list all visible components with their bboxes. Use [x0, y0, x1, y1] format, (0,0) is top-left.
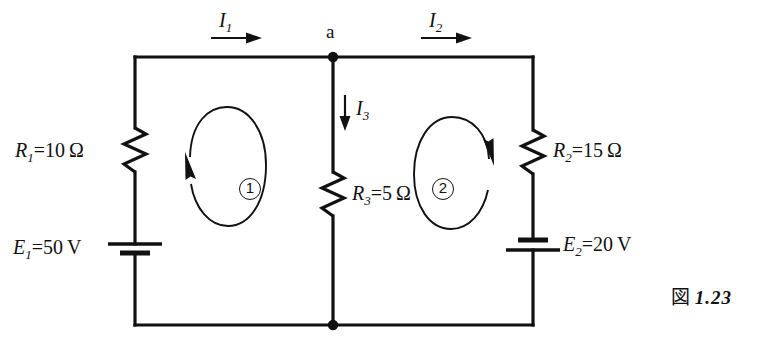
resistor-r1-symbol: [124, 128, 146, 172]
current-i3-subscript: 3: [363, 108, 370, 123]
resistor-r3-label: R3=5 Ω: [352, 183, 411, 207]
current-i2-arrow: [421, 33, 472, 44]
source-e2-value: 20: [593, 233, 613, 255]
resistor-r3-symbol-text: R: [352, 182, 364, 204]
current-i3-symbol: I: [356, 97, 363, 119]
resistor-r1-symbol-text: R: [15, 139, 27, 161]
source-e2-unit: V: [617, 233, 631, 255]
figure-caption-kanji: 図: [671, 287, 690, 308]
resistor-r2-symbol-text: R: [553, 139, 565, 161]
resistor-r3-unit: Ω: [396, 182, 411, 204]
figure-caption: 図 1.23: [671, 288, 732, 307]
resistor-r2-equals: =: [572, 139, 583, 161]
circuit-schematic: [0, 0, 759, 346]
resistor-r2-unit: Ω: [607, 139, 622, 161]
source-e2-symbol: [506, 240, 560, 250]
resistor-r2-symbol: [522, 130, 544, 174]
resistor-r2-label: R2=15 Ω: [553, 140, 622, 164]
resistor-r1-equals: =: [34, 139, 45, 161]
node-label-a: a: [326, 22, 334, 41]
loop-2-arrow: [414, 117, 494, 229]
source-e1-symbol: [108, 244, 162, 253]
source-e2-label: E2=20 V: [563, 234, 631, 258]
current-i2-label: I2: [429, 10, 442, 34]
source-e1-unit: V: [67, 236, 81, 258]
resistor-r1-unit: Ω: [69, 139, 84, 161]
resistor-r3-symbol: [322, 172, 344, 216]
source-e1-value: 50: [43, 236, 63, 258]
current-i2-subscript: 2: [436, 20, 443, 35]
loop-1-arrow: [185, 107, 266, 226]
current-i1-label: I1: [219, 10, 232, 34]
loop-2-number: 2: [432, 178, 454, 200]
figure-caption-number: 1.23: [695, 287, 732, 308]
source-e1-label: E1=50 V: [13, 237, 81, 261]
circuit-figure: a I1 I2 I3 R1=10 Ω R2=15 Ω R3=5 Ω E1=50 …: [0, 0, 759, 346]
source-e2-symbol-text: E: [563, 233, 575, 255]
resistor-r3-value: 5: [382, 182, 392, 204]
current-i1-arrow: [211, 33, 262, 44]
resistor-r1-label: R1=10 Ω: [15, 140, 84, 164]
current-i3-label: I3: [356, 98, 369, 122]
current-i1-symbol: I: [219, 9, 226, 31]
junction-dot-a: [328, 52, 338, 62]
loop-1-number: 1: [239, 178, 261, 200]
resistor-r2-value: 15: [583, 139, 603, 161]
junction-dot-bottom: [328, 320, 338, 330]
source-e1-symbol-text: E: [13, 236, 25, 258]
source-e2-equals: =: [582, 233, 593, 255]
current-i3-arrow: [340, 95, 351, 131]
current-i2-symbol: I: [429, 9, 436, 31]
source-e1-equals: =: [32, 236, 43, 258]
resistor-r3-equals: =: [371, 182, 382, 204]
current-i1-subscript: 1: [226, 20, 233, 35]
resistor-r1-value: 10: [45, 139, 65, 161]
wire-group: [135, 57, 533, 325]
